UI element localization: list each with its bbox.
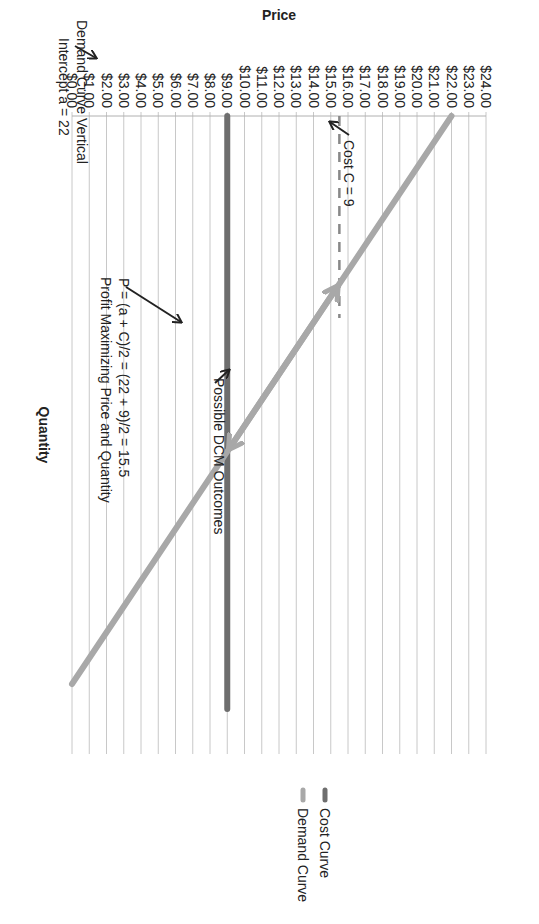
- x-axis-title: Quantity: [36, 407, 52, 464]
- y-tick-label: $10.00: [237, 65, 253, 108]
- y-tick-label: $18.00: [375, 65, 391, 108]
- y-tick-label: $6.00: [168, 73, 184, 108]
- annotation-profit-line2: P = (a + C)/2 = (22 + 9)/2 = 15.5: [116, 278, 132, 478]
- annotation-profit-line1: Profit Maximizing Price and Quantity: [98, 277, 114, 503]
- annotation-cost: Cost C = 9: [330, 122, 357, 207]
- y-axis-ticks: $0.00$1.00$2.00$3.00$4.00$5.00$6.00$7.00…: [64, 65, 494, 108]
- dcm-outcome-arrow-up: [283, 286, 337, 367]
- y-tick-label: $24.00: [478, 65, 494, 108]
- page: $0.00$1.00$2.00$3.00$4.00$5.00$6.00$7.00…: [0, 0, 539, 924]
- annotation-dcm-text: Possible DCM Outcomes: [211, 378, 227, 534]
- dcm-outcome-arrow-down: [229, 368, 283, 449]
- y-tick-label: $7.00: [185, 73, 201, 108]
- y-tick-label: $21.00: [426, 65, 442, 108]
- y-tick-label: $3.00: [116, 73, 132, 108]
- y-tick-label: $19.00: [392, 65, 408, 108]
- legend-label-demand: Demand Curve: [295, 808, 311, 902]
- annotation-dcm: Possible DCM Outcomes: [211, 370, 229, 534]
- y-tick-label: $22.00: [444, 65, 460, 108]
- annotation-profit-max: Profit Maximizing Price and Quantity P =…: [98, 277, 181, 503]
- y-tick-label: $11.00: [254, 66, 270, 108]
- annotation-intercept-line2: Intercept a = 22: [56, 38, 72, 136]
- y-tick-label: $8.00: [202, 73, 218, 108]
- y-tick-label: $14.00: [306, 65, 322, 108]
- y-tick-label: $9.00: [219, 73, 235, 108]
- legend: Demand Curve Cost Curve: [295, 790, 333, 902]
- y-tick-label: $20.00: [409, 65, 425, 108]
- y-tick-label: $16.00: [340, 65, 356, 108]
- profit-max-arrow-icon: [126, 287, 181, 322]
- chart-rotated-container: $0.00$1.00$2.00$3.00$4.00$5.00$6.00$7.00…: [0, 0, 539, 924]
- y-tick-label: $15.00: [323, 65, 339, 108]
- annotation-cost-text: Cost C = 9: [341, 140, 357, 207]
- y-tick-label: $2.00: [99, 73, 115, 108]
- chart-svg: $0.00$1.00$2.00$3.00$4.00$5.00$6.00$7.00…: [0, 0, 539, 924]
- y-tick-label: $17.00: [357, 65, 373, 108]
- y-axis-title: Price: [262, 7, 296, 23]
- y-tick-label: $23.00: [461, 65, 477, 108]
- y-tick-label: $5.00: [150, 73, 166, 108]
- y-tick-label: $13.00: [288, 65, 304, 108]
- gridlines: [72, 112, 486, 754]
- legend-label-cost: Cost Curve: [317, 808, 333, 878]
- y-tick-label: $12.00: [271, 65, 287, 108]
- annotation-intercept-line1: Demand Curve Vertical: [74, 20, 90, 164]
- y-tick-label: $4.00: [133, 73, 149, 108]
